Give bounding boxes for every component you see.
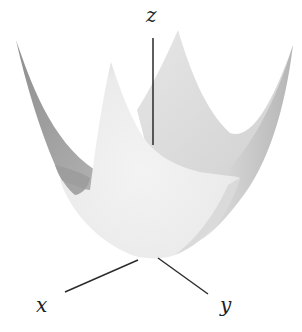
z-axis-label: z (145, 3, 157, 27)
paraboloid-figure: z x y (0, 0, 302, 332)
y-axis (158, 258, 208, 294)
x-axis-label: x (36, 293, 47, 317)
y-axis-label: y (219, 293, 232, 317)
x-axis (65, 260, 138, 292)
